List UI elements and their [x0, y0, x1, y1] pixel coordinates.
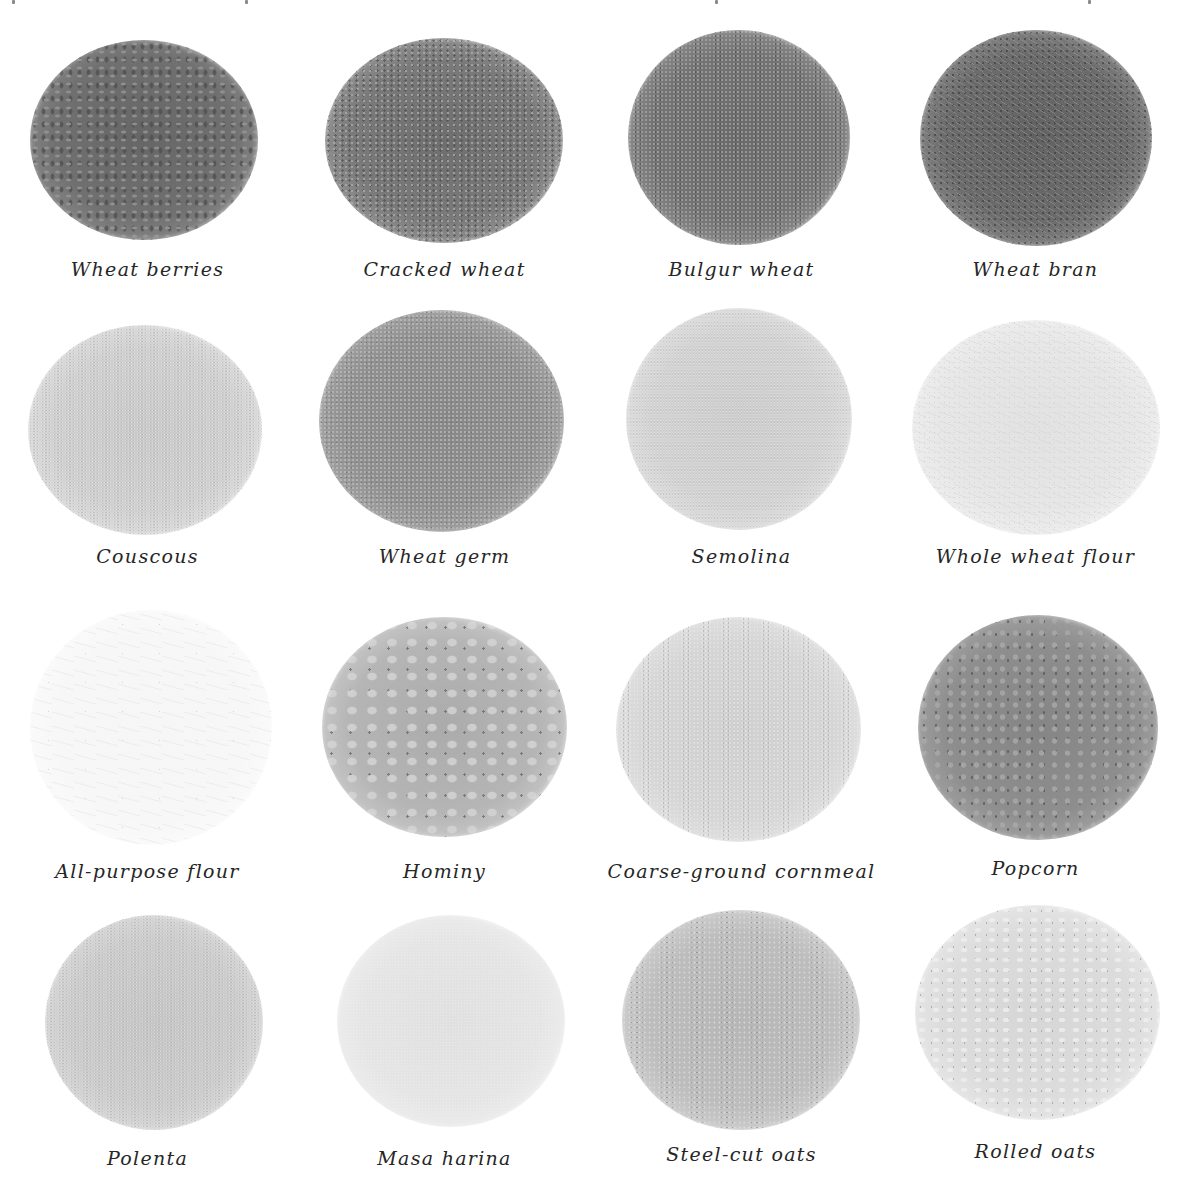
grain-item-semolina: Semolina	[594, 290, 889, 580]
grain-item-wheat-bran: Wheat bran	[890, 0, 1181, 290]
grain-caption: Wheat berries	[0, 258, 295, 280]
steel-cut-oats-image	[622, 910, 860, 1130]
cracked-wheat-image	[325, 38, 563, 243]
grain-caption: Masa harina	[297, 1147, 592, 1169]
grain-item-wheat-germ: Wheat germ	[297, 290, 592, 580]
grain-item-polenta: Polenta	[0, 885, 295, 1175]
grain-caption: All-purpose flour	[0, 860, 295, 882]
all-purpose-flour-image	[30, 610, 272, 845]
grain-item-masa-harina: Masa harina	[297, 885, 592, 1175]
grain-item-whole-wheat-flour: Whole wheat flour	[890, 290, 1181, 580]
grain-caption: Popcorn	[890, 857, 1181, 879]
grain-item-coarse-ground-cornmeal: Coarse-ground cornmeal	[594, 595, 889, 885]
popcorn-image	[918, 615, 1158, 840]
grain-caption: Bulgur wheat	[594, 258, 889, 280]
grain-caption: Whole wheat flour	[890, 545, 1181, 567]
coarse-ground-cornmeal-image	[616, 617, 861, 842]
grain-gallery: Wheat berries Cracked wheat Bulgur wheat…	[0, 0, 1181, 1182]
grain-caption: Coarse-ground cornmeal	[594, 860, 889, 882]
whole-wheat-flour-image	[912, 320, 1160, 535]
grain-caption: Cracked wheat	[297, 258, 592, 280]
grain-caption: Wheat bran	[890, 258, 1181, 280]
grain-caption: Rolled oats	[890, 1140, 1181, 1162]
wheat-bran-image	[920, 30, 1152, 246]
grain-caption: Couscous	[0, 545, 295, 567]
grain-item-cracked-wheat: Cracked wheat	[297, 0, 592, 290]
couscous-image	[28, 325, 262, 535]
semolina-image	[626, 308, 852, 530]
grain-caption: Steel-cut oats	[594, 1143, 889, 1165]
grain-item-popcorn: Popcorn	[890, 595, 1181, 885]
bulgur-wheat-image	[628, 30, 850, 245]
grain-item-steel-cut-oats: Steel-cut oats	[594, 885, 889, 1175]
grain-item-hominy: Hominy	[297, 595, 592, 885]
rolled-oats-image	[915, 905, 1160, 1120]
grain-item-rolled-oats: Rolled oats	[890, 885, 1181, 1175]
grain-item-all-purpose-flour: All-purpose flour	[0, 595, 295, 885]
wheat-berries-image	[30, 40, 258, 240]
grain-item-wheat-berries: Wheat berries	[0, 0, 295, 290]
masa-harina-image	[337, 915, 565, 1127]
wheat-germ-image	[319, 310, 564, 532]
grain-item-couscous: Couscous	[0, 290, 295, 580]
polenta-image	[45, 915, 263, 1130]
grain-caption: Wheat germ	[297, 545, 592, 567]
grain-caption: Semolina	[594, 545, 889, 567]
grain-caption: Hominy	[297, 860, 592, 882]
hominy-image	[322, 617, 567, 837]
grain-caption: Polenta	[0, 1147, 295, 1169]
grain-item-bulgur-wheat: Bulgur wheat	[594, 0, 889, 290]
